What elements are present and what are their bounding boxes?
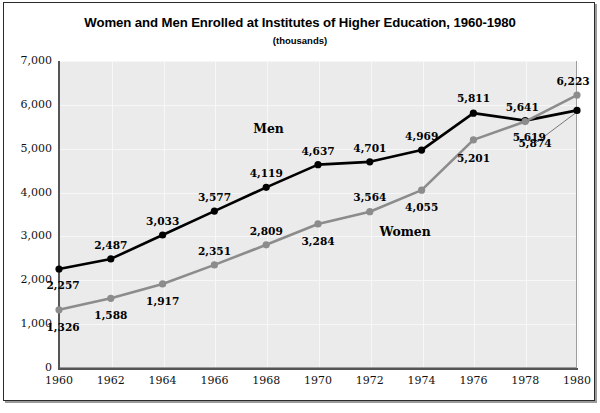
data-point-marker-women bbox=[159, 280, 166, 287]
data-point-label: 5,641 bbox=[506, 101, 539, 113]
data-point-marker-women bbox=[211, 261, 218, 268]
source-note bbox=[12, 407, 572, 413]
data-point-label: 3,577 bbox=[198, 191, 231, 203]
data-point-label: 4,119 bbox=[250, 167, 283, 179]
data-point-marker-women bbox=[522, 118, 529, 125]
data-point-marker-women bbox=[263, 241, 270, 248]
data-point-marker-men bbox=[263, 184, 270, 191]
data-point-label: 3,564 bbox=[353, 191, 386, 203]
data-point-marker-women bbox=[55, 306, 62, 313]
data-point-label: 1,917 bbox=[146, 295, 179, 307]
data-point-marker-women bbox=[470, 136, 477, 143]
data-point-label: 1,588 bbox=[94, 309, 127, 321]
data-point-label: 4,055 bbox=[405, 201, 438, 213]
series-line-women bbox=[59, 95, 577, 310]
data-point-label: 3,284 bbox=[302, 235, 335, 247]
data-point-marker-women bbox=[418, 187, 425, 194]
data-point-label: 6,223 bbox=[557, 75, 590, 87]
data-point-label: 2,351 bbox=[198, 245, 231, 257]
data-point-marker-men bbox=[366, 158, 373, 165]
data-point-marker-men bbox=[211, 208, 218, 215]
data-point-label: 4,969 bbox=[405, 130, 438, 142]
data-point-label: 5,811 bbox=[457, 92, 490, 104]
data-point-marker-women bbox=[573, 91, 580, 98]
data-point-label: 5,619 bbox=[513, 131, 546, 143]
data-point-label: 4,701 bbox=[353, 142, 386, 154]
data-point-marker-men bbox=[159, 231, 166, 238]
data-point-label: 4,637 bbox=[302, 145, 335, 157]
data-point-marker-men bbox=[314, 161, 321, 168]
series-annotation-men: Men bbox=[253, 121, 284, 136]
data-point-marker-women bbox=[107, 295, 114, 302]
data-point-marker-men bbox=[107, 255, 114, 262]
series-layer bbox=[4, 3, 596, 402]
data-point-label: 2,809 bbox=[250, 225, 283, 237]
data-point-marker-women bbox=[366, 208, 373, 215]
data-point-label: 3,033 bbox=[146, 215, 179, 227]
data-point-marker-men bbox=[470, 110, 477, 117]
data-point-label: 5,201 bbox=[457, 152, 490, 164]
data-point-label: 2,487 bbox=[94, 239, 127, 251]
data-point-marker-women bbox=[314, 220, 321, 227]
data-point-marker-men bbox=[418, 146, 425, 153]
data-point-marker-men bbox=[55, 265, 62, 272]
data-point-label: 2,257 bbox=[47, 279, 80, 291]
data-point-marker-men bbox=[573, 107, 580, 114]
data-point-label: 1,326 bbox=[47, 321, 80, 333]
series-annotation-women: Women bbox=[380, 224, 431, 239]
chart-figure: Women and Men Enrolled at Institutes of … bbox=[3, 2, 595, 401]
